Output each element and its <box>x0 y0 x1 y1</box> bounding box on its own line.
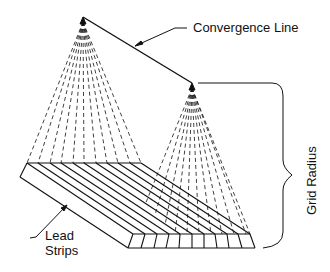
lead-strips-label-line2: Strips <box>45 243 78 258</box>
convergence-line-label: Convergence Line <box>193 20 299 35</box>
grid-radius-brace <box>198 83 292 248</box>
left-focal-rays <box>27 22 141 163</box>
right-apex-arrow-icon <box>189 83 195 90</box>
lead-strips-label: Lead Strips <box>45 228 78 258</box>
lead-strips-label-line1: Lead <box>45 228 78 243</box>
grid-radius-label: Grid Radius <box>304 135 319 215</box>
right-focal-rays <box>145 88 250 234</box>
grid-diagram: Convergence Line Lead Strips Grid Radius <box>0 0 330 272</box>
convergence-line <box>83 17 192 83</box>
